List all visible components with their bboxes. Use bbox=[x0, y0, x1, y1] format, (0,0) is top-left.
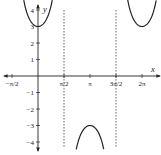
y-tick-label: −1 bbox=[27, 89, 35, 97]
x-tick-label: −π/2 bbox=[6, 80, 19, 88]
x-tick-label: 2π bbox=[138, 80, 146, 88]
y-tick-label: −4 bbox=[27, 139, 35, 147]
y-axis-label: y bbox=[42, 4, 47, 14]
secant-graph: −π/2π/2π3π/22π 1234−1−2−3−4 x y bbox=[0, 0, 161, 155]
y-tick-label: −3 bbox=[27, 122, 35, 130]
y-tick-label: 1 bbox=[31, 56, 35, 64]
x-tick-label: π/2 bbox=[60, 80, 69, 88]
curve-branch-3 bbox=[128, 0, 156, 26]
y-tick-label: 2 bbox=[31, 40, 35, 48]
y-tick-label: −2 bbox=[27, 106, 35, 114]
x-tick-label: π bbox=[88, 80, 92, 88]
asymptote-lines bbox=[64, 10, 116, 148]
x-tick-label: 3π/2 bbox=[110, 80, 123, 88]
x-axis-label: x bbox=[150, 64, 155, 74]
curve-branch-2 bbox=[76, 126, 103, 150]
y-tick-label: 4 bbox=[31, 7, 35, 15]
